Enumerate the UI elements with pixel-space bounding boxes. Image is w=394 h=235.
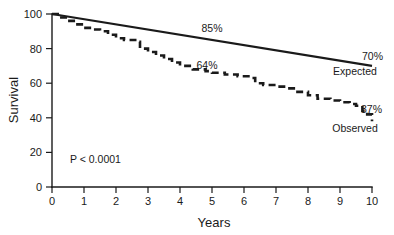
x-tick-label-0: 0 (49, 195, 55, 207)
x-tick-label-3: 3 (145, 195, 151, 207)
y-tick-label-20: 20 (30, 146, 42, 158)
y-axis-title: Survival (6, 77, 21, 123)
observed-mid-percent-label: 64% (196, 59, 217, 71)
survival-chart-figure: 0 20 40 60 80 100 0 1 2 3 4 5 6 (0, 0, 394, 235)
x-tick-group: 0 1 2 3 4 5 6 7 8 9 10 (49, 187, 378, 207)
x-tick-label-5: 5 (209, 195, 215, 207)
x-tick-label-6: 6 (241, 195, 247, 207)
x-tick-label-1: 1 (81, 195, 87, 207)
x-tick-label-2: 2 (113, 195, 119, 207)
x-tick-label-4: 4 (177, 195, 183, 207)
y-tick-label-0: 0 (36, 181, 42, 193)
y-tick-group: 0 20 40 60 80 100 (24, 8, 52, 193)
expected-mid-percent-label: 85% (201, 22, 222, 34)
observed-series-label: Observed (332, 122, 378, 134)
p-value-annotation: P < 0.0001 (70, 153, 121, 165)
y-tick-label-40: 40 (30, 112, 42, 124)
x-tick-label-8: 8 (305, 195, 311, 207)
x-tick-label-9: 9 (337, 195, 343, 207)
chart-canvas: 0 20 40 60 80 100 0 1 2 3 4 5 6 (0, 0, 394, 235)
x-tick-label-7: 7 (273, 195, 279, 207)
y-tick-label-80: 80 (30, 43, 42, 55)
y-tick-label-60: 60 (30, 77, 42, 89)
expected-end-percent-label: 70% (362, 50, 383, 62)
y-tick-label-100: 100 (24, 8, 42, 20)
x-axis-title: Years (198, 215, 231, 230)
x-tick-label-10: 10 (366, 195, 378, 207)
observed-end-percent-label: 37% (361, 103, 382, 115)
expected-series-label: Expected (333, 65, 377, 77)
